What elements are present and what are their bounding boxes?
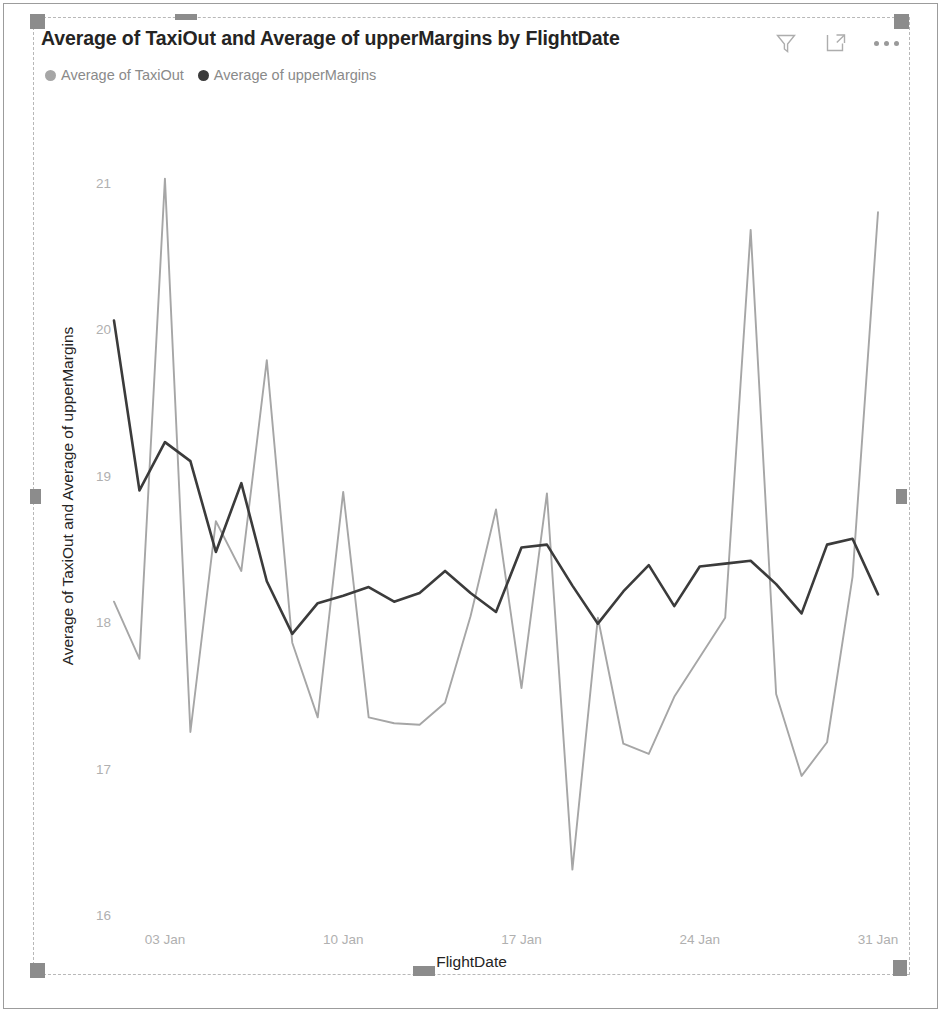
resize-handle-bottom-left[interactable] xyxy=(30,963,45,978)
resize-handle-top-right[interactable] xyxy=(894,14,909,29)
series-line[interactable] xyxy=(114,179,878,870)
resize-handle-top[interactable] xyxy=(175,14,197,20)
resize-handle-top-left[interactable] xyxy=(30,14,45,29)
resize-handle-bottom[interactable] xyxy=(413,966,435,976)
resize-handle-left[interactable] xyxy=(30,489,41,504)
resize-handle-right[interactable] xyxy=(896,489,907,504)
resize-handle-bottom-right[interactable] xyxy=(893,960,907,976)
plot-area: Average of TaxiOut and Average of upperM… xyxy=(33,17,910,975)
screenshot-page: Average of TaxiOut and Average of upperM… xyxy=(0,0,943,1014)
line-chart-visual[interactable]: Average of TaxiOut and Average of upperM… xyxy=(33,17,910,975)
chart-svg xyxy=(33,17,910,975)
